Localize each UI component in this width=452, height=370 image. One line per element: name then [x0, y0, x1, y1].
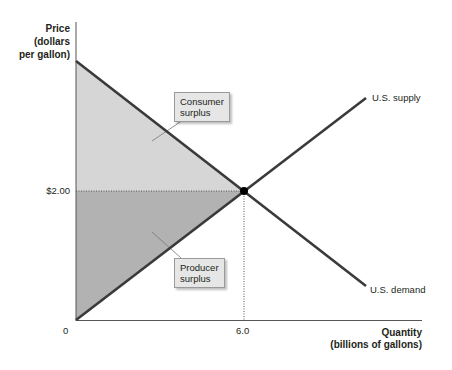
origin-label: 0	[63, 325, 68, 336]
supply-label: U.S. supply	[372, 92, 421, 103]
y-axis-label-line: per gallon)	[19, 48, 70, 61]
producer-surplus-label: Producer surplus	[174, 258, 225, 288]
consumer-surplus-label-line: surplus	[180, 107, 224, 118]
producer-surplus-label-line: Producer	[180, 262, 219, 273]
x-tick-label: 6.0	[236, 325, 249, 336]
equilibrium-point	[240, 187, 248, 195]
producer-surplus-label-line: surplus	[180, 273, 219, 284]
x-axis-label-line: Quantity	[330, 327, 422, 339]
y-tick-label: $2.00	[46, 185, 70, 196]
consumer-surplus-label: Consumer surplus	[174, 92, 230, 122]
y-axis-label-line: Price	[19, 22, 70, 35]
consumer-surplus-label-line: Consumer	[180, 96, 224, 107]
y-axis-label-line: (dollars	[19, 35, 70, 48]
x-axis-label: Quantity (billions of gallons)	[330, 327, 422, 351]
y-axis-label: Price (dollars per gallon)	[19, 22, 70, 61]
x-axis-label-line: (billions of gallons)	[330, 339, 422, 351]
demand-label: U.S. demand	[370, 284, 425, 295]
